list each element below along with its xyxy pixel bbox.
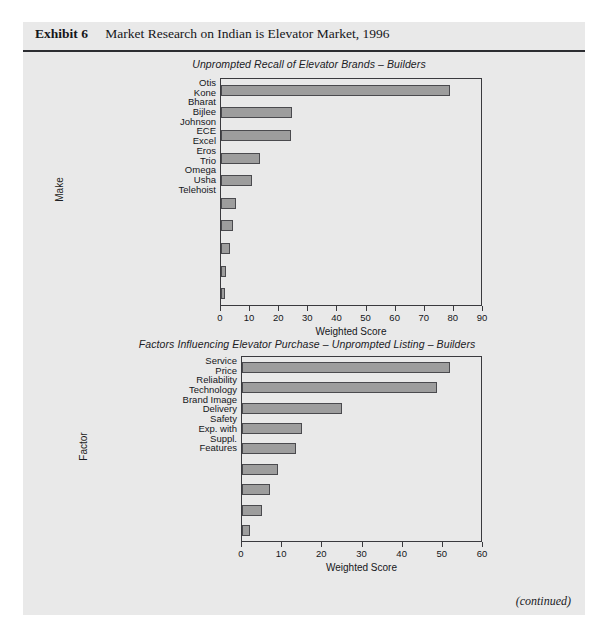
chart2-bar-row bbox=[242, 439, 481, 459]
chart2-bar bbox=[242, 362, 450, 373]
chart2-bar bbox=[242, 464, 278, 475]
exhibit-header: Exhibit 6 Market Research on Indian is E… bbox=[23, 22, 585, 50]
chart1-bar-row bbox=[221, 124, 481, 147]
chart2-tick bbox=[442, 542, 443, 547]
chart2-x-axis-title: Weighted Score bbox=[241, 562, 482, 573]
chart2-bar-row bbox=[242, 377, 481, 397]
chart1-tick bbox=[366, 306, 367, 311]
chart1-y-axis-title: Make bbox=[54, 177, 65, 201]
chart1-tick bbox=[336, 306, 337, 311]
chart2-bar bbox=[242, 443, 296, 454]
chart1-tick bbox=[424, 306, 425, 311]
chart2-bar-row bbox=[242, 459, 481, 479]
exhibit-title: Exhibit 6 Market Research on Indian is E… bbox=[35, 26, 389, 42]
chart2-bar-row bbox=[242, 418, 481, 438]
chart1-bar-row bbox=[221, 147, 481, 170]
chart2-bar-row bbox=[242, 398, 481, 418]
chart2-category-labels: ServicePriceReliabilityTechnologyBrand I… bbox=[149, 356, 237, 542]
header-divider bbox=[23, 50, 585, 52]
chart1-tick-label: 40 bbox=[331, 312, 342, 323]
chart2-tick bbox=[241, 542, 242, 547]
chart1-x-axis: Weighted Score 0102030405060708090 bbox=[220, 306, 482, 332]
chart1-tick bbox=[453, 306, 454, 311]
chart1-bar bbox=[221, 198, 236, 209]
chart1-tick bbox=[249, 306, 250, 311]
chart1-bar bbox=[221, 220, 233, 231]
chart2-bar bbox=[242, 484, 270, 495]
chart2-bar-row bbox=[242, 521, 481, 541]
chart1-tick bbox=[482, 306, 483, 311]
chart1-tick-label: 50 bbox=[360, 312, 371, 323]
chart2-tick-label: 60 bbox=[477, 548, 488, 559]
chart2-tick-label: 50 bbox=[437, 548, 448, 559]
chart1-tick-label: 20 bbox=[273, 312, 284, 323]
chart2-bar bbox=[242, 525, 250, 536]
chart1-tick bbox=[307, 306, 308, 311]
chart1-bar bbox=[221, 288, 225, 299]
chart2-category-label: Features bbox=[149, 443, 237, 453]
chart-factors-influencing-purchase: Factors Influencing Elevator Purchase – … bbox=[23, 338, 585, 588]
chart2-tick-label: 10 bbox=[276, 548, 287, 559]
chart1-tick-label: 60 bbox=[389, 312, 400, 323]
exhibit-panel: Exhibit 6 Market Research on Indian is E… bbox=[23, 22, 585, 615]
chart2-bar-row bbox=[242, 480, 481, 500]
chart1-tick-label: 70 bbox=[418, 312, 429, 323]
chart1-tick bbox=[220, 306, 221, 311]
chart1-bar bbox=[221, 85, 450, 96]
chart2-tick bbox=[402, 542, 403, 547]
chart1-bar bbox=[221, 130, 291, 141]
chart1-bar bbox=[221, 153, 260, 164]
chart1-bar-row bbox=[221, 192, 481, 215]
chart2-tick bbox=[281, 542, 282, 547]
chart1-bar-row bbox=[221, 169, 481, 192]
chart1-plot-area bbox=[220, 78, 482, 306]
chart1-tick-label: 90 bbox=[477, 312, 488, 323]
chart2-plot-area bbox=[241, 356, 482, 542]
chart2-bars bbox=[242, 357, 481, 541]
chart2-bar bbox=[242, 505, 262, 516]
chart1-x-axis-title: Weighted Score bbox=[220, 326, 482, 337]
chart1-title: Unprompted Recall of Elevator Brands – B… bbox=[23, 58, 585, 70]
chart1-bar-row bbox=[221, 102, 481, 125]
exhibit-caption-text: Market Research on Indian is Elevator Ma… bbox=[105, 26, 389, 41]
chart1-tick-label: 30 bbox=[302, 312, 313, 323]
chart1-bar-row bbox=[221, 215, 481, 238]
chart2-tick-label: 30 bbox=[356, 548, 367, 559]
chart1-tick bbox=[395, 306, 396, 311]
chart2-tick bbox=[362, 542, 363, 547]
chart2-bar bbox=[242, 382, 437, 393]
chart2-bar-row bbox=[242, 357, 481, 377]
chart1-tick-label: 80 bbox=[448, 312, 459, 323]
chart2-tick bbox=[321, 542, 322, 547]
chart2-tick-label: 20 bbox=[316, 548, 327, 559]
chart1-category-labels: OtisKoneBharat BijleeJohnsonECEExcelEros… bbox=[132, 78, 216, 306]
chart1-tick-label: 10 bbox=[244, 312, 255, 323]
chart1-bars bbox=[221, 79, 481, 305]
chart1-tick bbox=[278, 306, 279, 311]
chart2-tick bbox=[482, 542, 483, 547]
chart1-bar-row bbox=[221, 282, 481, 305]
chart1-bar bbox=[221, 266, 226, 277]
chart2-bar-row bbox=[242, 500, 481, 520]
chart-unprompted-recall: Unprompted Recall of Elevator Brands – B… bbox=[23, 58, 585, 353]
chart2-category-label: Exp. with Suppl. bbox=[149, 424, 237, 443]
chart2-tick-label: 40 bbox=[396, 548, 407, 559]
chart1-category-label: Usha Telehoist bbox=[132, 175, 216, 194]
chart1-tick-label: 0 bbox=[217, 312, 222, 323]
chart1-bar-row bbox=[221, 79, 481, 102]
chart1-bar-row bbox=[221, 260, 481, 283]
chart2-tick-label: 0 bbox=[238, 548, 243, 559]
chart1-bar bbox=[221, 243, 230, 254]
chart1-bar-row bbox=[221, 237, 481, 260]
chart2-bar bbox=[242, 403, 342, 414]
chart2-title: Factors Influencing Elevator Purchase – … bbox=[23, 338, 585, 350]
exhibit-page: Exhibit 6 Market Research on Indian is E… bbox=[0, 0, 606, 639]
chart1-category-label: Bharat Bijlee bbox=[132, 97, 216, 116]
chart2-x-axis: Weighted Score 0102030405060 bbox=[241, 542, 482, 568]
chart1-bar bbox=[221, 107, 292, 118]
continued-note: (continued) bbox=[516, 594, 571, 609]
chart1-bar bbox=[221, 175, 252, 186]
chart2-y-axis-title: Factor bbox=[78, 432, 89, 460]
chart2-bar bbox=[242, 423, 302, 434]
exhibit-number-label: Exhibit 6 bbox=[35, 26, 88, 41]
